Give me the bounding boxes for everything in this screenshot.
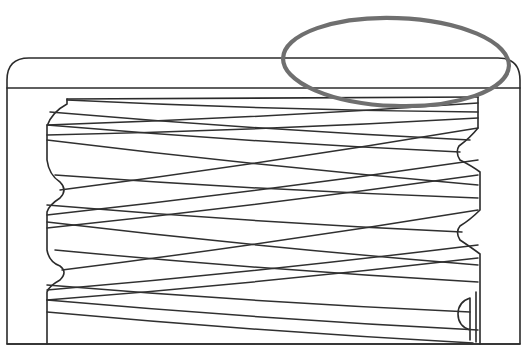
thread-line [47,160,478,215]
thread-lines-forward [47,103,478,300]
thread-line [47,205,462,232]
annotation-ellipse [282,14,511,110]
thread-line [55,175,478,198]
thread-line [47,300,478,330]
thread-line [55,250,478,282]
thread-body-top [67,97,478,99]
thread-line [47,285,470,312]
thread-body-left-profile [47,99,67,344]
thread-diagram [0,0,531,361]
thread-runout-loop [458,292,476,342]
thread-line [47,118,478,135]
